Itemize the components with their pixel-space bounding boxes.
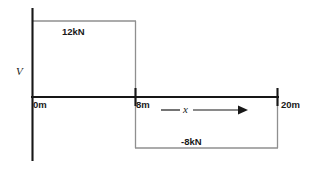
negative-shear-label: -8kN (181, 137, 202, 147)
x-axis-label: x (183, 104, 188, 115)
diagram-canvas (0, 0, 317, 175)
x-arrowhead-icon (238, 106, 248, 115)
shear-force-diagram: V 12kN 0m 8m 20m -8kN x (0, 0, 317, 175)
shear-curve (33, 21, 278, 148)
v-axis-label: V (16, 66, 23, 77)
x-tick-label-0m: 0m (33, 100, 47, 110)
x-tick-label-8m: 8m (136, 100, 150, 110)
positive-shear-label: 12kN (62, 27, 85, 37)
x-tick-label-20m: 20m (281, 100, 300, 110)
x-direction-arrow (161, 106, 248, 115)
